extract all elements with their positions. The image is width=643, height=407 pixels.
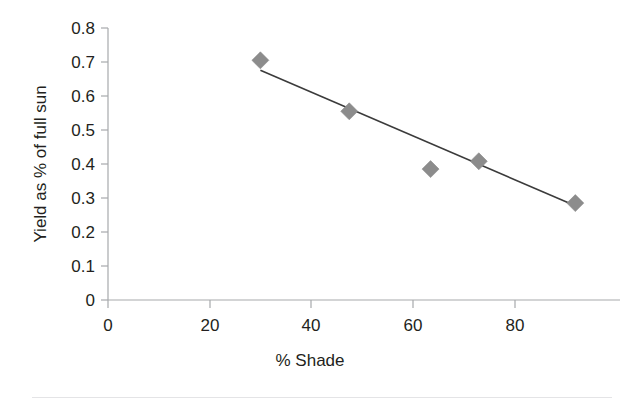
y-tick-label-0.6: 0.6 [71,87,95,106]
y-tick-label-0.8: 0.8 [71,19,95,38]
x-tick-label-60: 60 [404,316,423,335]
y-tick-label-0.3: 0.3 [71,189,95,208]
x-tick-label-0: 0 [103,316,112,335]
x-axis-title: % Shade [276,351,345,370]
trend-line [260,70,575,206]
x-tick-label-20: 20 [201,316,220,335]
data-point-marker [567,195,584,212]
x-tick-label-40: 40 [302,316,321,335]
y-axis-title: Yield as % of full sun [31,85,50,242]
data-point-marker [422,161,439,178]
y-tick-label-0.5: 0.5 [71,121,95,140]
y-tick-label-0.4: 0.4 [71,155,95,174]
footer-rule [32,397,612,398]
chart-figure: 0.8 0.7 0.6 0.5 0.4 0.3 0.2 0.1 0 0 20 4… [0,0,643,407]
x-axis-ticks [108,300,515,308]
y-tick-label-0.7: 0.7 [71,53,95,72]
x-tick-label-80: 80 [506,316,525,335]
y-tick-label-0: 0 [86,291,95,310]
data-point-marker [252,52,269,69]
y-tick-label-0.2: 0.2 [71,223,95,242]
scatter-plot: 0.8 0.7 0.6 0.5 0.4 0.3 0.2 0.1 0 0 20 4… [0,0,643,407]
y-axis-ticks [101,28,108,300]
y-tick-label-0.1: 0.1 [71,257,95,276]
